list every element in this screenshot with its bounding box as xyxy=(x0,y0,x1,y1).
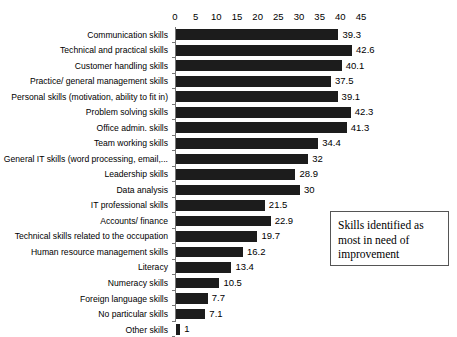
bar-value-label: 10.5 xyxy=(223,276,242,290)
bar xyxy=(176,169,295,180)
bar xyxy=(176,309,205,320)
bar-row: 28.9 xyxy=(175,167,361,183)
bar-value-label: 39.1 xyxy=(342,90,361,104)
category-label: Leadership skills xyxy=(0,167,171,183)
category-label: Other skills xyxy=(0,322,171,337)
bar-value-label: 30 xyxy=(304,183,315,197)
x-tick-label-45: 45 xyxy=(356,11,367,22)
bar-row: 39.1 xyxy=(175,89,361,105)
bar xyxy=(176,107,351,118)
bar xyxy=(176,60,342,71)
category-label: Human resource management skills xyxy=(0,244,171,260)
x-tick-label-20: 20 xyxy=(252,11,263,22)
bar-row: 41.3 xyxy=(175,120,361,136)
category-axis-labels: Communication skillsTechnical and practi… xyxy=(0,27,171,322)
bar xyxy=(176,200,265,211)
category-label: General IT skills (word processing, emai… xyxy=(0,151,171,167)
category-label: Technical and practical skills xyxy=(0,43,171,59)
bar-row: 42.6 xyxy=(175,43,361,59)
category-label: Numeracy skills xyxy=(0,275,171,291)
bar-value-label: 1 xyxy=(184,322,189,336)
plot-area: 39.342.640.137.539.142.341.334.43228.930… xyxy=(175,27,361,322)
bar-value-label: 19.7 xyxy=(261,229,280,243)
x-axis-tick-labels: 051015202530354045 xyxy=(175,11,361,25)
bar-row: 1 xyxy=(175,322,361,337)
bar-value-label: 21.5 xyxy=(269,198,288,212)
category-label: Foreign language skills xyxy=(0,291,171,307)
category-label: No particular skills xyxy=(0,306,171,322)
annotation-line: Skills identified as xyxy=(338,218,441,233)
bar xyxy=(176,45,352,56)
bar-value-label: 42.3 xyxy=(355,105,374,119)
bar xyxy=(176,324,180,335)
bar-value-label: 42.6 xyxy=(356,43,375,57)
bar-value-label: 41.3 xyxy=(351,121,370,135)
bar xyxy=(176,76,331,87)
bar-row: 7.1 xyxy=(175,306,361,322)
category-label: Problem solving skills xyxy=(0,105,171,121)
bar-value-label: 39.3 xyxy=(342,28,361,42)
annotation-line: most in need of xyxy=(338,233,441,248)
bar xyxy=(176,216,271,227)
category-label: Personal skills (motivation, ability to … xyxy=(0,89,171,105)
bar xyxy=(176,138,318,149)
bar xyxy=(176,185,300,196)
category-label: Customer handling skills xyxy=(0,58,171,74)
bar-value-label: 7.7 xyxy=(212,291,225,305)
bar-row: 37.5 xyxy=(175,74,361,90)
bar-value-label: 7.1 xyxy=(209,307,222,321)
bar-value-label: 40.1 xyxy=(346,59,365,73)
x-tick-label-35: 35 xyxy=(314,11,325,22)
bar-row: 7.7 xyxy=(175,291,361,307)
bar xyxy=(176,122,347,133)
category-label: Office admin. skills xyxy=(0,120,171,136)
category-label: Accounts/ finance xyxy=(0,213,171,229)
bar-row: 32 xyxy=(175,151,361,167)
category-label: Technical skills related to the occupati… xyxy=(0,229,171,245)
bar-value-label: 28.9 xyxy=(299,167,318,181)
category-label: Data analysis xyxy=(0,182,171,198)
category-label: Team working skills xyxy=(0,136,171,152)
category-label: Communication skills xyxy=(0,27,171,43)
bar xyxy=(176,262,231,273)
category-label: IT professional skills xyxy=(0,198,171,214)
annotation-line: improvement xyxy=(338,247,441,262)
bar-row: 30 xyxy=(175,182,361,198)
bar xyxy=(176,278,219,289)
x-tick-label-0: 0 xyxy=(172,11,177,22)
x-tick-label-25: 25 xyxy=(273,11,284,22)
bar-row: 34.4 xyxy=(175,136,361,152)
x-tick-label-10: 10 xyxy=(211,11,222,22)
x-tick-label-5: 5 xyxy=(193,11,198,22)
bar-value-label: 32 xyxy=(312,152,323,166)
bar-value-label: 37.5 xyxy=(335,74,354,88)
category-label: Literacy xyxy=(0,260,171,276)
x-tick-label-40: 40 xyxy=(335,11,346,22)
bar-value-label: 16.2 xyxy=(247,245,266,259)
category-label: Practice/ general management skills xyxy=(0,74,171,90)
x-tick-label-15: 15 xyxy=(232,11,243,22)
bar-value-label: 34.4 xyxy=(322,136,341,150)
bar-row: 39.3 xyxy=(175,27,361,43)
bar xyxy=(176,91,338,102)
bar-row: 10.5 xyxy=(175,275,361,291)
bar-value-label: 13.4 xyxy=(235,260,254,274)
bar-row: 42.3 xyxy=(175,105,361,121)
bar xyxy=(176,231,257,242)
bar xyxy=(176,29,338,40)
annotation-callout: Skills identified asmost in need ofimpro… xyxy=(330,211,449,266)
bar xyxy=(176,247,243,258)
bar xyxy=(176,154,308,165)
bar xyxy=(176,293,208,304)
bar-value-label: 22.9 xyxy=(275,214,294,228)
x-tick-label-30: 30 xyxy=(294,11,305,22)
bar-row: 40.1 xyxy=(175,58,361,74)
